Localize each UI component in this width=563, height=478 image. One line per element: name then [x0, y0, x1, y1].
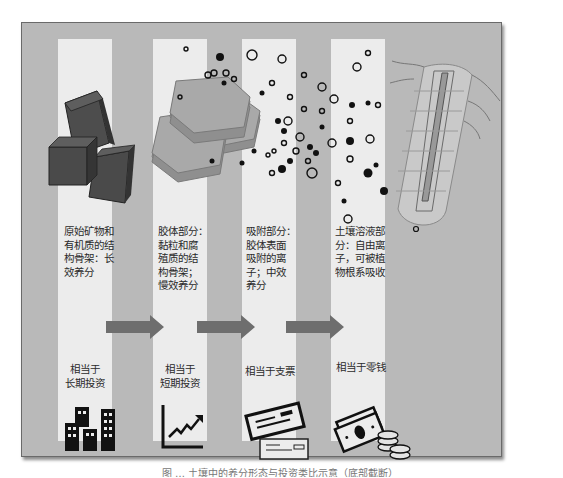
stage-description-colloid: 胶体部分： 黏粒和腐 殖质的结 构骨架； 慢效养分: [158, 225, 208, 293]
arrow-icon: [106, 315, 166, 339]
rising-chart-icon: [161, 405, 207, 449]
stage-description-solution: 土壤溶液部 分：自由离 子，可被植 物根系吸收: [335, 225, 385, 279]
stage-description-structural: 原始矿物和 有机质的结 构骨架：长 效养分: [64, 225, 114, 279]
stage-analogy-colloid: 相当于 短期投资: [153, 363, 207, 390]
stage-description-adsorbed: 吸附部分： 胶体表面 吸附的离 子；中效 养分: [246, 225, 296, 293]
plant-root-graphic: [384, 61, 484, 231]
figure-caption: 图 … 土壤中的养分形态与投资类比示意（底部截断）: [140, 465, 420, 477]
buildings-icon: [65, 403, 121, 451]
stage-analogy-solution: 相当于零钱: [327, 361, 395, 375]
arrow-icon: [197, 315, 257, 339]
diagram-panel: 原始矿物和 有机质的结 构骨架：长 效养分 胶体部分： 黏粒和腐 殖质的结 构骨…: [21, 22, 502, 457]
arrow-icon: [286, 315, 346, 339]
mineral-cubes-graphic: [47, 73, 137, 193]
cheque-icon: [246, 403, 316, 459]
stage-analogy-structural: 相当于 长期投资: [58, 363, 112, 390]
stage-analogy-adsorbed: 相当于支票: [236, 365, 304, 379]
cash-coins-icon: [336, 403, 416, 461]
